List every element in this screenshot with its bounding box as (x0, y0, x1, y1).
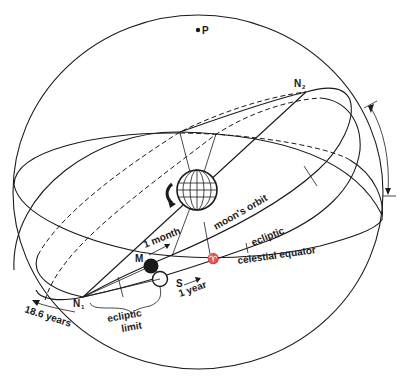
ecliptic-limit-label-line2: limit (120, 319, 143, 334)
nodal-period-label: 18.6 years (23, 303, 73, 329)
diagram-canvas: P N 2 N 1 M S ♈ moon's orbit ecliptic ce… (0, 0, 406, 376)
node-n1-subscript: 1 (81, 304, 85, 310)
node-n2-label: N (294, 78, 301, 89)
earth-connector-left (180, 133, 190, 172)
node-n1-label: N (73, 298, 80, 309)
moon-label: M (135, 253, 143, 264)
ecliptic-label: ecliptic (250, 225, 286, 248)
earth-globe (177, 170, 217, 210)
celestial-sphere-diagram: P N 2 N 1 M S ♈ moon's orbit ecliptic ce… (0, 0, 406, 376)
n1-to-sun-line (83, 279, 160, 297)
moon-orbit-back-solid (180, 92, 306, 132)
equator-back-dashed (180, 133, 350, 160)
range-arrow-down-icon (385, 188, 391, 195)
node-n2-subscript: 2 (302, 84, 306, 90)
north-pole-dot (196, 28, 200, 32)
earth-rotation-arrow-icon (167, 184, 172, 203)
ecliptic-front (83, 98, 360, 297)
earth-connector-right (204, 134, 216, 172)
pole-label: P (202, 25, 209, 36)
inclination-marker-upper (304, 166, 317, 186)
moons-orbit-label: moon's orbit (212, 192, 270, 232)
vernal-equinox-symbol: ♈ (207, 252, 219, 265)
inclination-range-arc (371, 108, 388, 193)
n1-to-moon-line (83, 266, 151, 297)
